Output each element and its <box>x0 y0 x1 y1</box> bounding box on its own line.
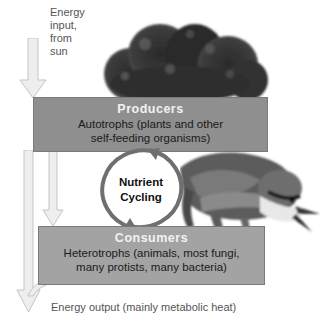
cycle-line1: Nutrient <box>108 175 174 190</box>
producers-description-line1: Autotrophs (plants and other <box>33 117 268 131</box>
consumers-description-line1: Heterotrophs (animals, most fungi, <box>38 246 265 260</box>
cycle-line2: Cycling <box>108 190 174 205</box>
producers-description-line2: self-feeding organisms) <box>33 131 268 145</box>
producers-title: Producers <box>33 102 268 117</box>
energy-input-line: Energy <box>50 6 85 19</box>
energy-input-line: input, <box>50 19 85 32</box>
energy-input-label: Energy input, from sun <box>50 6 85 58</box>
energy-input-arrow-icon <box>18 38 48 100</box>
nutrient-cycling-label: Nutrient Cycling <box>108 175 174 205</box>
consumers-description-line2: many protists, many bacteria) <box>38 260 265 274</box>
consumers-box: Consumers Heterotrophs (animals, most fu… <box>38 226 265 285</box>
energy-output-label: Energy output (mainly metabolic heat) <box>51 301 236 314</box>
producer-to-consumer-arrow-icon <box>42 150 66 228</box>
consumers-title: Consumers <box>38 231 265 246</box>
energy-input-line: from <box>50 32 85 45</box>
tree-image <box>100 14 270 100</box>
energy-input-line: sun <box>50 45 85 58</box>
producers-box: Producers Autotrophs (plants and other s… <box>33 97 268 152</box>
